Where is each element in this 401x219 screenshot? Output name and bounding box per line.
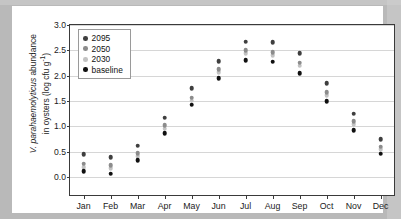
- x-tick-mark: [192, 195, 193, 199]
- data-point: [270, 50, 275, 55]
- x-tick-mark: [327, 195, 328, 199]
- x-tick-mark: [354, 195, 355, 199]
- data-point: [378, 152, 383, 157]
- legend-item: 2030: [83, 54, 123, 65]
- x-tick-label: Dec: [373, 201, 389, 211]
- y-tick-mark: [67, 50, 70, 51]
- data-point: [351, 119, 356, 124]
- legend-label: baseline: [92, 65, 123, 75]
- legend: 209520502030baseline: [78, 29, 131, 79]
- y-tick-mark: [67, 25, 70, 26]
- y-tick-label: 0.0: [54, 172, 66, 182]
- data-point: [297, 51, 302, 56]
- gridline: [70, 101, 394, 102]
- x-tick-label: Feb: [103, 201, 118, 211]
- x-tick-label: May: [183, 201, 200, 211]
- data-point: [216, 67, 221, 72]
- data-point: [108, 155, 113, 160]
- x-tick-label: Jul: [240, 201, 251, 211]
- x-tick-mark: [165, 195, 166, 199]
- scan-edge-shade-top: [0, 0, 401, 5]
- legend-item: baseline: [83, 65, 123, 76]
- legend-label: 2095: [92, 33, 111, 43]
- data-point: [108, 163, 113, 168]
- data-point: [135, 151, 140, 156]
- figure-paper: V. parahaemolyticus abundance in oysters…: [12, 6, 383, 213]
- x-tick-label: Sep: [292, 201, 308, 211]
- y-tick-label: 1.5: [54, 96, 66, 106]
- y-tick-label: 2.0: [54, 71, 66, 81]
- y-axis-title-units: in oysters (log cfu g: [41, 62, 51, 135]
- x-tick-mark: [273, 195, 274, 199]
- legend-item: 2050: [83, 44, 123, 55]
- data-point: [297, 71, 302, 76]
- x-tick-mark: [300, 195, 301, 199]
- y-tick-mark: [67, 101, 70, 102]
- data-point: [81, 161, 86, 166]
- legend-marker-icon: [83, 46, 88, 51]
- data-point: [135, 143, 140, 148]
- plot-area: 0.00.51.01.52.02.53.0 JanFebMarAprMayJun…: [69, 24, 395, 196]
- data-point: [351, 128, 356, 133]
- y-axis-title-species: V. parahaemolyticus: [28, 78, 38, 153]
- legend-marker-icon: [83, 67, 88, 72]
- data-point: [162, 131, 167, 136]
- x-tick-label: Nov: [346, 201, 362, 211]
- y-tick-mark: [67, 152, 70, 153]
- legend-label: 2050: [92, 44, 111, 54]
- gridline: [70, 152, 394, 153]
- data-point: [189, 95, 194, 100]
- data-point: [351, 112, 356, 117]
- data-point: [324, 90, 329, 95]
- data-point: [81, 169, 86, 174]
- data-point: [378, 137, 383, 142]
- x-tick-mark: [111, 195, 112, 199]
- x-tick-mark: [219, 195, 220, 199]
- x-tick-label: Mar: [130, 201, 145, 211]
- legend-label: 2030: [92, 54, 111, 64]
- y-axis-title-exponent: -1: [40, 56, 47, 62]
- y-tick-label: 0.5: [54, 147, 66, 157]
- legend-marker-icon: [83, 57, 88, 62]
- y-tick-mark: [67, 177, 70, 178]
- data-point: [243, 39, 248, 44]
- data-point: [162, 116, 167, 121]
- data-point: [216, 76, 221, 81]
- y-tick-label: 1.0: [54, 121, 66, 131]
- figure-root: V. parahaemolyticus abundance in oysters…: [0, 0, 401, 219]
- gridline: [70, 177, 394, 178]
- data-point: [324, 81, 329, 86]
- data-point: [324, 99, 329, 104]
- y-tick-label: 3.0: [54, 20, 66, 30]
- x-tick-label: Aug: [265, 201, 281, 211]
- x-tick-mark: [84, 195, 85, 199]
- y-axis-title-paren: ): [41, 53, 51, 56]
- x-tick-mark: [381, 195, 382, 199]
- y-tick-label: 2.5: [54, 45, 66, 55]
- y-axis-title-rest: abundance: [28, 34, 38, 78]
- x-tick-label: Oct: [320, 201, 334, 211]
- y-tick-mark: [67, 126, 70, 127]
- gridline: [70, 25, 394, 26]
- data-point: [189, 86, 194, 91]
- gridline: [70, 126, 394, 127]
- data-point: [108, 171, 113, 176]
- x-tick-mark: [246, 195, 247, 199]
- data-point: [270, 59, 275, 64]
- data-point: [297, 60, 302, 65]
- x-tick-label: Jan: [76, 201, 90, 211]
- x-tick-label: Jun: [211, 201, 225, 211]
- data-point: [378, 144, 383, 149]
- x-tick-mark: [138, 195, 139, 199]
- legend-item: 2095: [83, 33, 123, 44]
- y-tick-mark: [67, 76, 70, 77]
- data-point: [243, 58, 248, 63]
- data-point: [162, 123, 167, 128]
- data-point: [216, 59, 221, 64]
- data-point: [135, 158, 140, 163]
- legend-marker-icon: [83, 36, 88, 41]
- data-point: [81, 152, 86, 157]
- data-point: [243, 48, 248, 53]
- x-tick-label: Apr: [158, 201, 172, 211]
- data-point: [189, 102, 194, 107]
